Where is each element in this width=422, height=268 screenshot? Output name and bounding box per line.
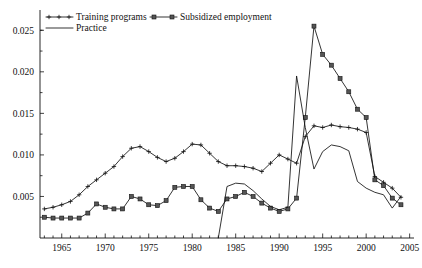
x-tick-label: 1975 — [139, 243, 158, 253]
data-point-marker — [295, 196, 299, 200]
legend-item-practice[interactable]: Practice — [46, 23, 107, 33]
data-point-marker — [347, 90, 351, 94]
series-training-programs — [42, 123, 403, 211]
data-point-marker — [138, 144, 142, 148]
data-point-marker — [355, 107, 359, 111]
data-point-marker — [364, 116, 368, 120]
data-point-marker — [199, 198, 203, 202]
x-tick-label: 1985 — [226, 243, 245, 253]
data-point-marker — [260, 201, 264, 205]
data-point-marker — [338, 76, 342, 80]
x-tick-label: 2000 — [357, 243, 376, 253]
data-point-marker — [251, 194, 255, 198]
data-point-marker — [77, 216, 81, 220]
data-point-marker — [347, 125, 351, 129]
data-point-marker — [95, 202, 99, 206]
data-point-marker — [138, 197, 142, 201]
data-point-marker — [152, 15, 156, 19]
data-point-marker — [86, 211, 90, 215]
legend-label: Subsidized employment — [180, 12, 272, 22]
legend-item-training-programs[interactable]: Training programs — [46, 12, 147, 22]
data-point-marker — [164, 159, 168, 163]
x-tick-label: 1980 — [183, 243, 202, 253]
data-point-marker — [320, 125, 324, 129]
legend-item-subsidized-employment[interactable]: Subsidized employment — [150, 12, 272, 22]
data-point-marker — [182, 184, 186, 188]
data-point-marker — [51, 205, 55, 209]
x-tick-label: 1970 — [96, 243, 115, 253]
data-point-marker — [390, 196, 394, 200]
data-point-marker — [373, 178, 377, 182]
line-chart: 0.0050.0100.0150.0200.025 19651970197519… — [0, 0, 422, 268]
x-tick-label: 2005 — [400, 243, 419, 253]
data-point-marker — [329, 63, 333, 67]
data-point-marker — [173, 185, 177, 189]
data-point-marker — [68, 216, 72, 220]
data-point-marker — [208, 206, 212, 210]
x-tick-label: 1995 — [313, 243, 332, 253]
data-point-marker — [338, 124, 342, 128]
data-point-marker — [121, 207, 125, 211]
data-point-marker — [312, 24, 316, 28]
data-point-marker — [321, 52, 325, 56]
data-point-marker — [242, 190, 246, 194]
legend-label: Practice — [76, 23, 107, 33]
data-point-marker — [42, 207, 46, 211]
data-point-marker — [355, 127, 359, 131]
data-point-marker — [233, 164, 237, 168]
series-subsidized-employment — [42, 24, 403, 220]
x-tick-label: 1990 — [270, 243, 289, 253]
data-point-marker — [225, 164, 229, 168]
data-point-marker — [382, 184, 386, 188]
data-point-marker — [294, 161, 298, 165]
data-point-marker — [47, 15, 51, 19]
data-point-marker — [57, 15, 61, 19]
data-point-marker — [170, 15, 174, 19]
data-point-marker — [164, 199, 168, 203]
data-point-marker — [329, 123, 333, 127]
legend-label: Training programs — [76, 12, 147, 22]
data-point-marker — [147, 203, 151, 207]
series-layer — [42, 24, 403, 238]
data-point-marker — [67, 15, 71, 19]
chart-legend: Training programsSubsidized employmentPr… — [46, 12, 272, 33]
x-axis: 196519701975198019851990199520002005 — [40, 234, 419, 254]
y-tick-label: 0.010 — [13, 150, 35, 160]
y-tick-label: 0.020 — [13, 67, 35, 77]
data-point-marker — [225, 197, 229, 201]
y-axis: 0.0050.0100.0150.0200.025 — [13, 10, 44, 238]
data-point-marker — [399, 203, 403, 207]
chart-container: 0.0050.0100.0150.0200.025 19651970197519… — [0, 0, 422, 268]
data-point-marker — [129, 194, 133, 198]
data-point-marker — [155, 204, 159, 208]
y-tick-label: 0.015 — [13, 109, 35, 119]
data-point-marker — [251, 166, 255, 170]
data-point-marker — [242, 164, 246, 168]
data-point-marker — [286, 157, 290, 161]
data-point-marker — [234, 194, 238, 198]
y-tick-label: 0.025 — [13, 26, 35, 36]
data-point-marker — [216, 209, 220, 213]
data-point-marker — [60, 203, 64, 207]
data-point-marker — [60, 216, 64, 220]
data-point-marker — [42, 215, 46, 219]
data-point-marker — [51, 216, 55, 220]
y-tick-label: 0.005 — [13, 192, 35, 202]
series-practice — [218, 76, 401, 238]
data-point-marker — [190, 184, 194, 188]
data-point-marker — [103, 205, 107, 209]
data-point-marker — [112, 207, 116, 211]
x-tick-label: 1965 — [52, 243, 71, 253]
